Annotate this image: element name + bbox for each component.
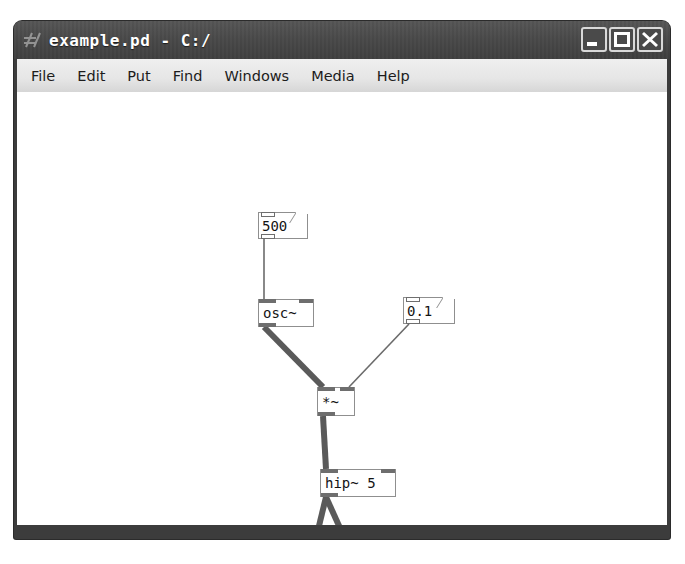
menu-item-windows[interactable]: Windows xyxy=(224,68,289,84)
patch-cord-signal[interactable] xyxy=(323,416,326,469)
minimize-button[interactable] xyxy=(581,27,607,52)
patch-cord-signal[interactable] xyxy=(311,497,326,532)
outlet-0[interactable] xyxy=(318,412,335,416)
outlet-0[interactable] xyxy=(321,493,338,497)
inlet-0[interactable] xyxy=(261,212,275,217)
menu-item-file[interactable]: File xyxy=(31,68,55,84)
atom-box-notch-edge xyxy=(443,296,456,299)
pd-logo-icon xyxy=(23,30,45,50)
box-label: 500 xyxy=(262,219,287,233)
inlet-0[interactable] xyxy=(321,469,338,473)
menu-item-edit[interactable]: Edit xyxy=(77,68,105,84)
outlet-0[interactable] xyxy=(261,234,275,239)
inlet-1[interactable] xyxy=(299,299,313,303)
number-box-num-500[interactable]: 500 xyxy=(258,212,308,239)
object-box-hip[interactable]: hip~ 5 xyxy=(320,469,396,497)
menu-item-put[interactable]: Put xyxy=(127,68,150,84)
window-controls xyxy=(581,27,663,52)
number-box-num-01[interactable]: 0.1 xyxy=(403,297,455,324)
menu-item-find[interactable]: Find xyxy=(173,68,203,84)
window-titlebar[interactable]: example.pd - C:/ xyxy=(14,21,670,59)
inlet-0[interactable] xyxy=(259,299,276,303)
box-label: hip~ 5 xyxy=(325,476,376,490)
close-button[interactable] xyxy=(637,27,663,52)
outlet-0[interactable] xyxy=(259,323,276,327)
box-label: *~ xyxy=(322,395,339,409)
outlet-0[interactable] xyxy=(406,319,420,324)
pd-patch-window: example.pd - C:/ xyxy=(14,21,670,539)
inlet-1[interactable] xyxy=(340,387,354,391)
window-title: example.pd - C:/ xyxy=(49,31,211,50)
patch-canvas[interactable]: 500osc~0.1*~hip~ 5dac~ xyxy=(14,92,670,532)
menu-item-help[interactable]: Help xyxy=(377,68,410,84)
box-label: 0.1 xyxy=(407,304,432,318)
object-box-times[interactable]: *~ xyxy=(317,387,355,416)
patch-cord-message[interactable] xyxy=(349,324,409,387)
box-label: osc~ xyxy=(263,306,297,320)
inlet-0[interactable] xyxy=(406,297,420,302)
atom-box-notch-edge xyxy=(296,211,309,214)
maximize-button[interactable] xyxy=(609,27,635,52)
patch-cord-signal[interactable] xyxy=(326,497,354,532)
inlet-1[interactable] xyxy=(381,469,395,473)
object-box-osc[interactable]: osc~ xyxy=(258,299,314,327)
menu-item-media[interactable]: Media xyxy=(311,68,355,84)
menubar: File Edit Put Find Windows Media Help xyxy=(14,59,670,92)
inlet-0[interactable] xyxy=(318,387,335,391)
patch-cord-signal[interactable] xyxy=(264,327,323,387)
patch-cords-layer xyxy=(17,92,667,532)
